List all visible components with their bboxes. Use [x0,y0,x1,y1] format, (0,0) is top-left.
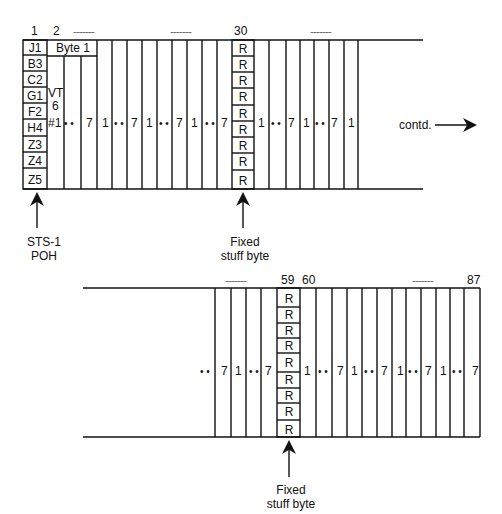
poh-byte: J1 [29,41,42,55]
svg-text:R: R [285,324,294,338]
poh-byte: G1 [27,89,43,103]
sts1-vt-frame-diagram: 1 2 30 .............. .............. ...… [0,0,502,514]
poh-byte: C2 [27,73,43,87]
svg-text:R: R [239,107,248,121]
svg-text:R: R [285,423,294,437]
col-label-1: 1 [31,24,38,38]
svg-text:7: 7 [288,116,295,130]
dots-label: .............. [412,274,434,284]
byte1-label: Byte 1 [56,41,90,55]
svg-text:R: R [239,123,248,137]
svg-text:• •: • • [315,118,325,129]
svg-text:7: 7 [265,364,272,378]
svg-text:R: R [239,174,248,188]
poh-bytes: J1 B3 C2 G1 F2 H4 Z3 Z4 Z5 [27,41,43,187]
stuff-caption: Fixed [276,483,305,497]
stuff-caption: stuff byte [221,249,270,263]
poh-caption: POH [31,249,57,263]
svg-text:• •: • • [271,118,281,129]
col-label-2: 2 [53,24,60,38]
stuff-caption: Fixed [230,235,259,249]
svg-text:7: 7 [331,116,338,130]
svg-text:1: 1 [258,116,265,130]
svg-text:7: 7 [176,116,183,130]
svg-text:1: 1 [351,364,358,378]
svg-text:1: 1 [303,116,310,130]
svg-text:R: R [239,42,248,56]
col-label-60: 60 [302,273,316,287]
poh-byte: Z4 [28,154,42,168]
svg-text:• •: • • [452,366,462,377]
svg-text:R: R [285,339,294,353]
svg-text:R: R [285,389,294,403]
bottom-frame [83,288,480,437]
dots-label: .............. [73,25,95,35]
svg-text:7: 7 [381,364,388,378]
svg-text:• •: • • [408,366,418,377]
col-label-87: 87 [467,273,481,287]
stuff-caption: stuff byte [267,497,316,511]
svg-text:R: R [285,405,294,419]
svg-text:1: 1 [102,116,109,130]
dots-label: .............. [310,25,332,35]
svg-text:• •: • • [159,118,169,129]
svg-text:• •: • • [318,366,328,377]
svg-text:7: 7 [221,116,228,130]
svg-text:• •: • • [114,118,124,129]
top-stuff-bytes: R R R R R R R R R [239,42,248,188]
svg-text:R: R [239,74,248,88]
svg-text:• •: • • [64,118,74,129]
svg-text:R: R [239,58,248,72]
bottom-stuff-bytes: R R R R R R R R R [285,292,294,437]
svg-text:1: 1 [397,364,404,378]
poh-byte: Z5 [28,173,42,187]
svg-text:R: R [285,373,294,387]
poh-byte: B3 [28,57,43,71]
svg-text:• •: • • [364,366,374,377]
dots-label: .............. [225,274,247,284]
svg-text:1: 1 [440,364,447,378]
svg-text:1: 1 [304,364,311,378]
svg-text:R: R [239,90,248,104]
svg-text:R: R [239,139,248,153]
bottom-sequence-labels: • • 7 1 • • 7 1 • • 7 1 • • 7 1 • • 7 1 … [200,364,479,378]
svg-text:R: R [285,308,294,322]
svg-text:R: R [285,356,294,370]
top-frame [23,40,423,189]
svg-text:7: 7 [472,364,479,378]
svg-text:• •: • • [205,118,215,129]
vt-label: VT [48,86,64,100]
vt-label: #1 [48,116,62,130]
svg-text:1: 1 [191,116,198,130]
svg-text:7: 7 [425,364,432,378]
svg-text:7: 7 [86,116,93,130]
diagram-canvas: 1 2 30 .............. .............. ...… [0,0,502,514]
col-label-59: 59 [281,273,295,287]
contd-label: contd. [399,118,432,132]
svg-text:• •: • • [200,366,210,377]
svg-text:R: R [239,155,248,169]
poh-byte: F2 [28,105,42,119]
svg-text:R: R [285,292,294,306]
svg-text:1: 1 [235,364,242,378]
vt-label: 6 [52,99,59,113]
svg-text:7: 7 [221,364,228,378]
col-label-30: 30 [234,24,248,38]
poh-byte: Z3 [28,138,42,152]
svg-text:1: 1 [146,116,153,130]
top-sequence-labels: • • 7 1 • • 7 1 • • 7 1 • • 7 1 • • 7 1 … [64,116,355,130]
svg-text:• •: • • [249,366,259,377]
dots-label: .............. [170,25,192,35]
svg-text:7: 7 [131,116,138,130]
svg-text:7: 7 [337,364,344,378]
poh-byte: H4 [27,121,43,135]
poh-caption: STS-1 [27,235,61,249]
svg-text:1: 1 [348,116,355,130]
